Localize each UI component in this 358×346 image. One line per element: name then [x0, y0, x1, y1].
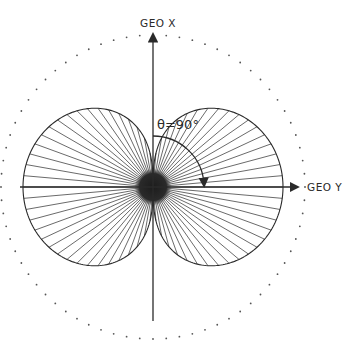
- radiation-pattern-diagram: GEO X GEO Y θ=90°: [0, 0, 358, 346]
- lobe-spoke: [24, 187, 153, 198]
- lobe-spoke: [153, 187, 282, 198]
- circle-dot: [302, 160, 304, 162]
- circle-dot: [65, 62, 67, 64]
- circle-dot: [216, 48, 218, 50]
- circle-dot: [0, 186, 2, 188]
- circle-dot: [20, 110, 22, 112]
- circle-dot: [36, 88, 38, 90]
- circle-dot: [304, 186, 306, 188]
- circle-dot: [302, 212, 304, 214]
- circle-dot: [36, 284, 38, 286]
- circle-dot: [139, 338, 141, 340]
- circle-dot: [76, 54, 78, 56]
- circle-dot: [45, 294, 47, 296]
- circle-dot: [299, 225, 301, 227]
- circle-dot: [269, 88, 271, 90]
- circle-dot: [65, 311, 67, 313]
- circle-dot: [14, 122, 16, 124]
- lobe-spoke: [153, 135, 265, 187]
- circle-dot: [2, 160, 4, 162]
- circle-dot: [54, 303, 56, 305]
- lobe-spoke: [41, 187, 153, 239]
- circle-dot: [45, 79, 47, 81]
- circle-dot: [165, 35, 167, 37]
- circle-dot: [284, 262, 286, 264]
- circle-dot: [204, 329, 206, 331]
- circle-dot: [2, 212, 4, 214]
- circle-dot: [113, 39, 115, 41]
- circle-dot: [290, 122, 292, 124]
- circle-dot: [5, 147, 7, 149]
- circle-dot: [14, 250, 16, 252]
- circle-dot: [5, 225, 7, 227]
- circle-dot: [239, 311, 241, 313]
- circle-dot: [304, 199, 306, 201]
- lobe-spoke: [153, 187, 265, 239]
- circle-dot: [1, 199, 3, 201]
- circle-dot: [250, 303, 252, 305]
- circle-dot: [152, 34, 154, 36]
- circle-dot: [28, 99, 30, 101]
- circle-dot: [284, 110, 286, 112]
- theta-label: θ=90°: [157, 117, 199, 132]
- circle-dot: [216, 324, 218, 326]
- circle-dot: [178, 36, 180, 38]
- circle-dot: [260, 294, 262, 296]
- circle-dot: [9, 238, 11, 240]
- circle-dot: [277, 273, 279, 275]
- circle-dot: [54, 70, 56, 72]
- circle-dot: [260, 79, 262, 81]
- circle-dot: [100, 43, 102, 45]
- circle-dot: [88, 324, 90, 326]
- circle-dot: [228, 318, 230, 320]
- circle-dot: [295, 134, 297, 136]
- lobe-spoke: [30, 187, 153, 220]
- circle-dot: [126, 36, 128, 38]
- circle-dot: [250, 70, 252, 72]
- circle-dot: [228, 54, 230, 56]
- circle-dot: [290, 250, 292, 252]
- lobe-spoke: [30, 154, 153, 187]
- circle-dot: [20, 262, 22, 264]
- circle-dot: [191, 333, 193, 335]
- circle-dot: [277, 99, 279, 101]
- lobe-spoke: [153, 154, 276, 187]
- geo-x-label: GEO X: [140, 17, 176, 29]
- circle-dot: [100, 329, 102, 331]
- lobe-spoke: [153, 176, 282, 187]
- circle-dot: [28, 273, 30, 275]
- circle-dot: [304, 173, 306, 175]
- circle-dot: [269, 284, 271, 286]
- circle-dot: [178, 336, 180, 338]
- lobe-spoke: [41, 135, 153, 187]
- circle-dot: [1, 173, 3, 175]
- circle-dot: [165, 338, 167, 340]
- circle-dot: [88, 48, 90, 50]
- circle-dot: [299, 147, 301, 149]
- circle-dot: [76, 318, 78, 320]
- geo-y-label: GEO Y: [307, 181, 342, 193]
- circle-dot: [9, 134, 11, 136]
- circle-dot: [239, 62, 241, 64]
- lobe-spoke: [153, 187, 276, 220]
- circle-dot: [152, 338, 154, 340]
- circle-dot: [204, 43, 206, 45]
- circle-dot: [191, 39, 193, 41]
- lobe-spoke: [24, 176, 153, 187]
- circle-dot: [139, 35, 141, 37]
- circle-dot: [126, 336, 128, 338]
- circle-dot: [295, 238, 297, 240]
- circle-dot: [113, 333, 115, 335]
